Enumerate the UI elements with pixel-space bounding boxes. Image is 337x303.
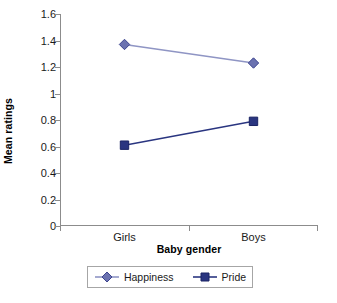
legend-label: Pride (222, 271, 247, 283)
y-axis-tick (55, 173, 60, 174)
y-axis-tick-labels: 00.20.40.60.811.21.41.6 (16, 14, 56, 226)
series-pride (120, 117, 257, 149)
legend-marker-diamond-icon (94, 271, 120, 283)
x-axis-tick-label: Girls (113, 231, 136, 243)
plot-area (60, 14, 318, 226)
y-axis-tick (55, 120, 60, 121)
y-axis-title: Mean ratings (2, 76, 14, 186)
y-axis-tick-label: 1 (16, 88, 56, 100)
data-point-marker (119, 39, 129, 49)
legend-item-happiness[interactable]: Happiness (94, 271, 174, 283)
data-point-marker (248, 58, 258, 68)
y-axis-tick-label: 0.6 (16, 141, 56, 153)
series-layer (60, 14, 318, 226)
x-axis-tick-label: Boys (241, 231, 265, 243)
y-axis-tick-label: 1.6 (16, 8, 56, 20)
y-axis-tick-label: 0.8 (16, 114, 56, 126)
legend-item-pride[interactable]: Pride (192, 271, 247, 283)
series-happiness (119, 39, 258, 68)
y-axis-tick-label: 1.4 (16, 35, 56, 47)
y-axis-tick-label: 0 (16, 220, 56, 232)
y-axis-tick (55, 14, 60, 15)
x-axis-title: Baby gender (60, 243, 318, 255)
y-axis-tick-label: 0.2 (16, 194, 56, 206)
y-axis-tick (55, 94, 60, 95)
y-axis-tick (55, 67, 60, 68)
legend: HappinessPride (87, 266, 253, 288)
y-axis-tick (55, 200, 60, 201)
y-axis-tick-label: 0.4 (16, 167, 56, 179)
y-axis-tick (55, 41, 60, 42)
data-point-marker (120, 141, 128, 149)
data-point-marker (249, 117, 257, 125)
legend-label: Happiness (124, 271, 174, 283)
y-axis-tick (55, 147, 60, 148)
legend-marker-square-icon (192, 271, 218, 283)
y-axis-tick-label: 1.2 (16, 61, 56, 73)
series-line (125, 44, 254, 63)
series-line (125, 121, 254, 145)
line-chart: Mean ratings 00.20.40.60.811.21.41.6 Gir… (0, 0, 337, 303)
